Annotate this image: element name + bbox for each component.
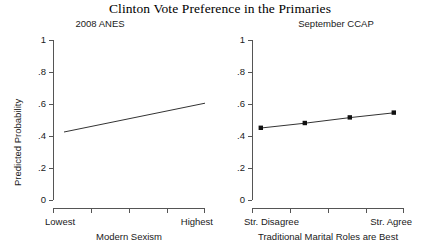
y-tick-label-08: .8 — [38, 66, 46, 77]
x-axis-label-highest: Highest — [181, 216, 213, 227]
x-tick-4 — [167, 209, 168, 213]
data-point-2 — [303, 121, 307, 125]
panel-subtitle-ccap: September CCAP — [226, 18, 440, 29]
y-tick-label-04: .4 — [38, 130, 46, 141]
y-tick-label-02: .2 — [237, 162, 245, 173]
y-tick-0: 0 — [49, 200, 53, 201]
panel-subtitle-anes: 2008 ANES — [0, 18, 210, 29]
x-tick-3 — [129, 209, 130, 213]
x-tick-5 — [204, 209, 205, 213]
data-point-1 — [259, 126, 263, 130]
x-tick-2 — [290, 209, 291, 213]
series-line-ccap — [252, 40, 404, 200]
y-tick-0: 0 — [248, 200, 252, 201]
panel-anes: 2008 ANES 0 .2 .4 .6 .8 1 — [0, 18, 220, 248]
y-tick-label-0: 0 — [240, 194, 245, 205]
x-axis-label-str-agree: Str. Agree — [370, 216, 412, 227]
x-tick-4 — [366, 209, 367, 213]
y-tick-label-04: .4 — [237, 130, 245, 141]
x-axis-title-modern-sexism: Modern Sexism — [96, 231, 162, 242]
y-tick-label-1: 1 — [240, 34, 245, 45]
x-axis-label-str-disagree: Str. Disagree — [244, 216, 299, 227]
x-tick-5 — [403, 209, 404, 213]
series-line-anes — [53, 40, 205, 200]
x-tick-1 — [53, 209, 54, 213]
data-point-4 — [392, 110, 396, 114]
x-tick-2 — [91, 209, 92, 213]
y-axis-title-predicted-probability: Predicted Probability — [12, 99, 23, 186]
data-point-3 — [348, 115, 352, 119]
plot-area-anes: 0 .2 .4 .6 .8 1 Lowes — [53, 40, 205, 200]
y-tick-label-02: .2 — [38, 162, 46, 173]
figure-title: Clinton Vote Preference in the Primaries — [0, 1, 440, 17]
y-tick-label-06: .6 — [38, 98, 46, 109]
y-tick-label-06: .6 — [237, 98, 245, 109]
panel-ccap: September CCAP 0 .2 .4 .6 .8 1 — [220, 18, 440, 248]
y-tick-label-0: 0 — [41, 194, 46, 205]
plot-area-ccap: 0 .2 .4 .6 .8 1 — [252, 40, 404, 200]
x-tick-1 — [252, 209, 253, 213]
x-axis-label-lowest: Lowest — [45, 216, 75, 227]
y-tick-label-1: 1 — [41, 34, 46, 45]
y-tick-label-08: .8 — [237, 66, 245, 77]
x-axis-title-traditional-marital-roles: Traditional Marital Roles are Best — [258, 231, 398, 242]
x-tick-3 — [328, 209, 329, 213]
